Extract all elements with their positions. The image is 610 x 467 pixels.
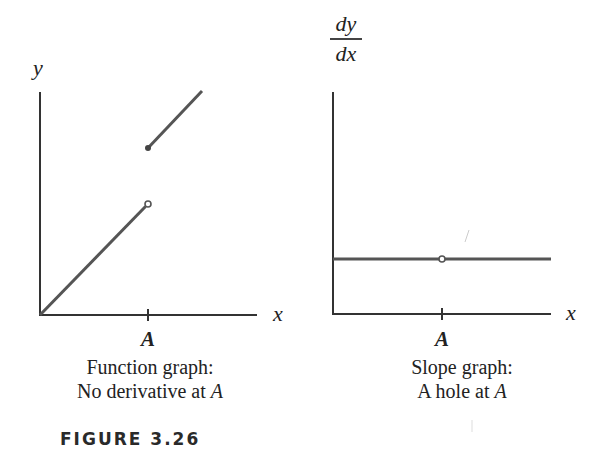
left-caption-line1: Function graph: [30, 355, 270, 379]
left-caption-line2: No derivative at A [30, 379, 270, 403]
fraction-bar [330, 38, 362, 40]
right-caption-var: A [495, 380, 507, 402]
right-caption: Slope graph: A hole at A [342, 355, 582, 403]
left-x-axis-label: x [273, 301, 283, 327]
right-caption-line1: Slope graph: [342, 355, 582, 379]
right-axes [332, 92, 551, 320]
left-tick-label-A: A [141, 327, 155, 352]
open-circle-endpoint [145, 201, 151, 207]
left-caption: Function graph: No derivative at A [30, 355, 270, 403]
right-x-axis-label: x [566, 300, 576, 326]
left-function-curve [40, 91, 202, 315]
lower-segment [40, 207, 146, 316]
dy-numerator: dy [328, 12, 364, 36]
right-caption-text: A hole at [417, 380, 494, 402]
upper-segment [148, 91, 202, 148]
right-tick-label-A: A [435, 327, 449, 352]
dx-denominator: dx [328, 42, 364, 66]
left-caption-var: A [211, 380, 223, 402]
right-y-axis-label: dy dx [328, 12, 364, 66]
right-slope-curve [333, 256, 551, 262]
filled-dot-endpoint [145, 145, 151, 151]
figure-number: FIGURE 3.26 [60, 429, 200, 449]
left-y-axis-label: y [33, 55, 43, 81]
left-caption-text: No derivative at [77, 380, 211, 402]
scan-artifact [465, 230, 469, 242]
hole-marker [439, 256, 445, 262]
right-caption-line2: A hole at A [342, 379, 582, 403]
